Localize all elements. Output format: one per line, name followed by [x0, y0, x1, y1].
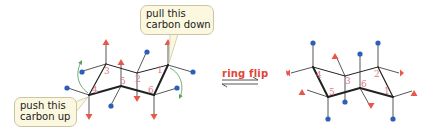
right-blue-markers [310, 40, 395, 121]
triangle-down-icon [86, 114, 93, 120]
callout-pointer [169, 34, 178, 63]
dot-icon [390, 116, 395, 121]
dot-icon [342, 99, 347, 104]
right-ring-bonds [313, 67, 393, 97]
callout-line: carbon down [146, 19, 208, 30]
callout-pull-carbon-down: pull this carbon down [140, 5, 214, 35]
carbon-label: 3 [104, 66, 110, 76]
curved-arrow-up-icon [78, 62, 88, 93]
callout-line: push this [20, 100, 71, 111]
triangle-down-icon [151, 114, 158, 120]
left-chair-conformation: 3 2 1 4 5 6 [64, 34, 195, 120]
callout-line: pull this [146, 8, 208, 19]
triangle-icon [400, 70, 404, 77]
curved-arrow-down-icon [170, 68, 182, 97]
triangle-up-icon [118, 59, 125, 65]
dot-icon [357, 51, 362, 56]
carbon-label: 3 [345, 76, 351, 86]
triangle-icon [332, 53, 339, 59]
triangle-up-icon [103, 39, 110, 45]
dot-icon [375, 40, 380, 45]
carbon-label: 4 [316, 70, 322, 80]
carbon-label: 4 [92, 85, 98, 95]
dot-icon [310, 40, 315, 45]
carbon-label: 6 [148, 85, 154, 95]
left-substituent-bonds [68, 43, 192, 116]
carbon-label: 1 [384, 86, 390, 96]
dot-icon [79, 69, 84, 74]
callout-line: carbon up [20, 111, 71, 122]
carbon-label: 6 [361, 79, 367, 89]
dot-icon [325, 116, 330, 121]
dot-icon [64, 85, 69, 90]
carbon-label: 2 [135, 74, 141, 84]
triangle-icon [299, 89, 306, 95]
carbon-label: 2 [374, 69, 380, 79]
carbon-label: 1 [157, 65, 163, 75]
dot-icon [190, 69, 195, 74]
left-red-markers [86, 39, 172, 120]
dot-icon [108, 103, 113, 108]
callout-push-carbon-up: push this carbon up [14, 97, 77, 127]
carbon-label: 5 [120, 76, 126, 86]
ring-flip-label: ring flip [222, 68, 268, 79]
carbon-label: 5 [329, 87, 335, 97]
right-substituent-bonds [291, 44, 412, 118]
right-red-markers [286, 53, 418, 109]
dot-icon [174, 85, 179, 90]
dot-icon [144, 49, 149, 54]
triangle-down-icon [368, 103, 375, 109]
triangle-down-icon [134, 96, 141, 102]
right-chair-conformation: 4 3 2 5 6 1 [286, 40, 418, 121]
